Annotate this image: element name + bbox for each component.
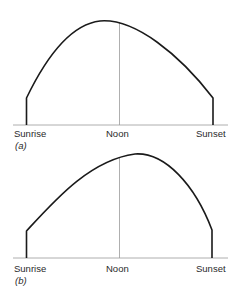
diagram-canvas — [0, 0, 239, 301]
panel-b — [13, 154, 228, 258]
panel-b-sunrise-label: Sunrise — [14, 264, 46, 274]
panel-a-tag: (a) — [15, 141, 27, 151]
panel-b-sunset-label: Sunset — [196, 264, 226, 274]
panel-a-sunset-label: Sunset — [196, 129, 226, 139]
panel-b-tag: (b) — [15, 276, 27, 286]
panel-a-sunrise-label: Sunrise — [14, 129, 46, 139]
panel-a — [13, 21, 228, 125]
panel-b-noon-label: Noon — [106, 264, 129, 274]
panel-a-noon-label: Noon — [106, 129, 129, 139]
